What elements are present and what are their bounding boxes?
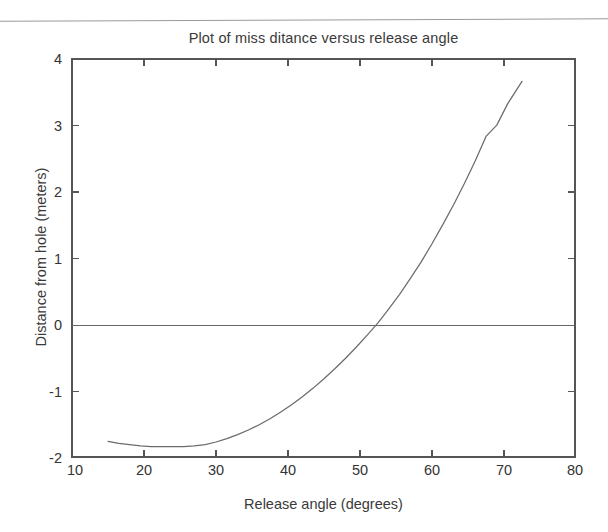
- y-axis-ticks: [72, 126, 575, 392]
- x-axis-ticks: [144, 59, 504, 457]
- plot-svg: [0, 0, 608, 532]
- data-curve: [108, 81, 522, 446]
- figure-canvas: Plot of miss ditance versus release angl…: [0, 0, 608, 532]
